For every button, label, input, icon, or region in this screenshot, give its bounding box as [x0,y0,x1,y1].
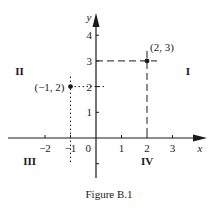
x-axis-label: x [197,142,203,154]
x-tick-label: 3 [170,142,176,154]
y-axis-arrow [93,13,100,27]
figure-caption: Figure B.1 [85,188,132,200]
quadrant-label: IV [141,155,153,167]
coordinate-plane: xy−2−112312340(2, 3)(−1, 2)IIIIIIIV Figu… [0,0,218,208]
y-axis-label: y [86,11,92,23]
y-tick-label: 2 [87,81,93,93]
quadrant-label: II [15,65,24,77]
x-tick-label: 2 [144,142,150,154]
x-axis-arrow [193,135,207,142]
x-tick-label: −2 [39,142,51,154]
y-tick-label: 3 [87,55,93,67]
quadrant-label: III [23,155,36,167]
x-tick-label: −1 [65,142,77,154]
y-tick-label: 1 [87,106,93,118]
data-point [68,84,73,89]
quadrant-label: I [186,65,190,77]
data-point [145,59,150,64]
y-tick-label: 4 [87,29,93,41]
origin-label: 0 [86,142,92,154]
x-tick-label: 1 [119,142,125,154]
point-label: (2, 3) [150,41,174,54]
point-label: (−1, 2) [34,81,64,94]
